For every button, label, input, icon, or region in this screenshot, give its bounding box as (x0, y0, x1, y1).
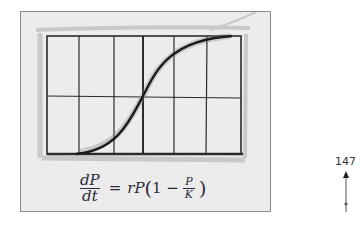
sigmoid-curve (76, 36, 232, 154)
denominator-dt: dt (80, 188, 100, 204)
denominator-K: K (183, 188, 195, 201)
derivative-fraction: dP dt (78, 173, 102, 204)
annotation-label: 147 (335, 155, 356, 168)
one-minus: 1 − (152, 179, 179, 197)
curve-shading (80, 36, 230, 152)
close-paren: ) (199, 177, 206, 199)
ratio-fraction: P K (183, 176, 195, 201)
logistic-equation: dP dt = rP ( 1 − P K ) (74, 170, 207, 206)
equals-sign: = (109, 179, 122, 197)
numerator-dP: dP (78, 173, 102, 188)
rhs-rP: rP (127, 179, 144, 197)
open-paren: ( (145, 177, 152, 199)
up-arrow-icon (343, 171, 349, 212)
numerator-P: P (183, 176, 194, 188)
